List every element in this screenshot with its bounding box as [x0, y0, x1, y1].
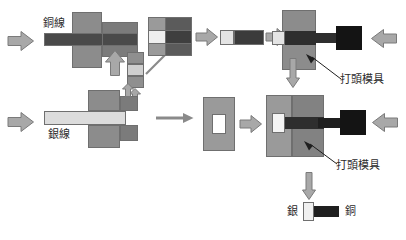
- cross-section-grid: [148, 17, 192, 56]
- product-copper-label: 銅: [345, 206, 356, 217]
- feed-arrow-silver: [8, 112, 34, 132]
- process-arrow-plain: [156, 112, 194, 124]
- silver-cutoff-die-lower: [88, 125, 120, 148]
- product-silver-label: 銀: [287, 206, 298, 217]
- feed-arrow-after-grid: [196, 28, 218, 46]
- slug-shank: [316, 33, 338, 43]
- silver-slug-cavity: [212, 114, 226, 134]
- leader-line-bottom-die: [304, 141, 338, 165]
- finished-rivet-copper-shank: [314, 206, 339, 217]
- heading-die-label-top: 打頭模具: [340, 74, 384, 85]
- transfer-arrow-down-top: [286, 58, 300, 88]
- copper-wire-label: 銅線: [43, 18, 65, 29]
- grid-cell-1-0: [149, 31, 166, 44]
- grid-cell-2-1: [166, 44, 191, 55]
- stack-cell-0: [127, 52, 144, 64]
- silver-shear-die-lower: [120, 125, 138, 141]
- punch-head-top: [336, 26, 362, 50]
- punch-arrow-left-top: [371, 29, 397, 48]
- finished-rivet-silver-head: [303, 202, 314, 221]
- copper-slug-silver-tip: [220, 30, 234, 45]
- ejector-arrow-up-copper: [105, 50, 125, 76]
- silver-shear-die-upper: [120, 96, 138, 111]
- copper-wire-in-die: [102, 33, 138, 46]
- slug-body-in-die: [285, 31, 316, 45]
- process-diagram: 銅線: [0, 0, 406, 240]
- silver-wire-bar: [44, 111, 126, 125]
- grid-cell-1-1: [166, 31, 191, 44]
- stack-cell-1: [127, 64, 144, 76]
- ejector-arrow-up-silver: [122, 83, 134, 97]
- feed-arrow-to-combined-die: [240, 115, 262, 133]
- punch-arrow-left-bottom: [372, 113, 398, 132]
- punch-head-bottom: [340, 110, 366, 135]
- silver-slug-in-combined-die: [272, 113, 285, 133]
- slug-silver-tip-in-die: [272, 31, 285, 45]
- grid-cell-2-0: [149, 44, 166, 55]
- grid-cell-0-1: [166, 18, 191, 31]
- copper-cutoff-die-lower: [72, 45, 102, 68]
- leader-line-top-die: [306, 54, 342, 80]
- heading-die-label-bottom: 打頭模具: [336, 160, 380, 171]
- result-arrow-down: [302, 172, 316, 200]
- silver-cutoff-die-upper: [88, 90, 120, 111]
- grid-cell-0-0: [149, 18, 166, 31]
- copper-slug-body: [234, 30, 264, 45]
- feed-arrow-copper: [8, 31, 34, 51]
- silver-wire-label: 銀線: [48, 129, 70, 140]
- copper-cutoff-die-upper: [72, 12, 102, 34]
